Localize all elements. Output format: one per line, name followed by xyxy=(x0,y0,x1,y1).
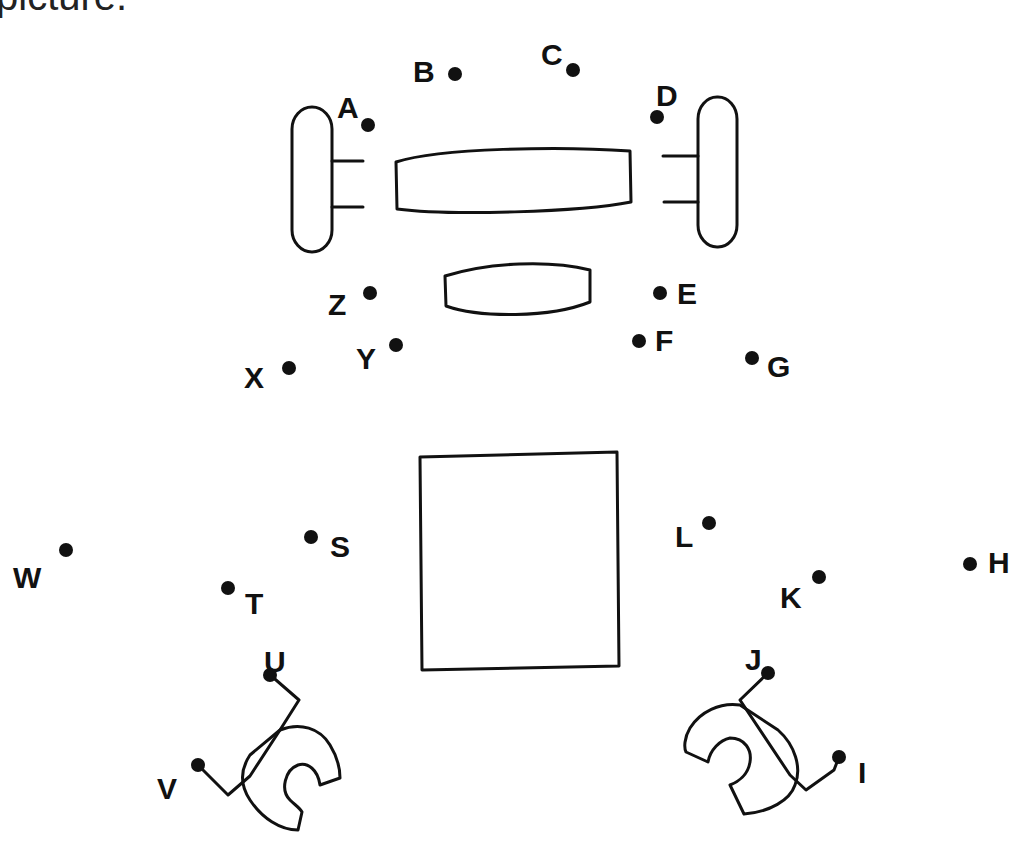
dot-s xyxy=(304,530,318,544)
dot-label-x: X xyxy=(244,361,264,394)
dot-i xyxy=(832,750,846,764)
dot-g xyxy=(745,351,759,365)
dot-label-l: L xyxy=(675,520,693,553)
dot-e xyxy=(653,286,667,300)
dot-label-f: F xyxy=(655,324,673,357)
dot-label-g: G xyxy=(767,350,790,383)
body-square xyxy=(420,452,619,670)
dot-label-j: J xyxy=(745,643,762,676)
dot-label-i: I xyxy=(858,756,866,789)
dot-y xyxy=(389,338,403,352)
dot-w xyxy=(59,543,73,557)
dot-z xyxy=(363,286,377,300)
dots-layer: ABCDEFGHIJKLSTUVWXYZ xyxy=(13,38,1010,805)
left-ear-shape xyxy=(292,107,332,252)
dot-label-b: B xyxy=(413,55,435,88)
dot-h xyxy=(963,557,977,571)
left-claw xyxy=(203,675,299,795)
dot-d xyxy=(650,110,664,124)
right-claw xyxy=(740,673,839,790)
dot-label-w: W xyxy=(13,561,42,594)
dot-x xyxy=(282,361,296,375)
dot-label-v: V xyxy=(157,772,177,805)
dot-a xyxy=(361,118,375,132)
dot-label-t: T xyxy=(245,587,263,620)
dot-label-d: D xyxy=(656,79,678,112)
dot-label-z: Z xyxy=(328,288,346,321)
dot-f xyxy=(632,334,646,348)
dot-label-y: Y xyxy=(356,342,376,375)
dot-label-c: C xyxy=(541,38,563,71)
connect-the-dots-drawing: ABCDEFGHIJKLSTUVWXYZ xyxy=(0,0,1018,861)
dot-label-a: A xyxy=(337,91,359,124)
dot-v xyxy=(191,758,205,772)
dot-j xyxy=(761,666,775,680)
dot-t xyxy=(221,581,235,595)
mouth-shape xyxy=(445,264,590,315)
dot-label-e: E xyxy=(677,277,697,310)
dot-label-u: U xyxy=(264,645,286,678)
dot-l xyxy=(702,516,716,530)
right-ear-shape xyxy=(698,97,737,247)
dot-label-s: S xyxy=(330,530,350,563)
dot-label-h: H xyxy=(988,546,1010,579)
dot-label-k: K xyxy=(780,581,802,614)
visor-shape xyxy=(396,149,631,213)
dot-k xyxy=(812,570,826,584)
dot-b xyxy=(448,67,462,81)
dot-c xyxy=(566,63,580,77)
